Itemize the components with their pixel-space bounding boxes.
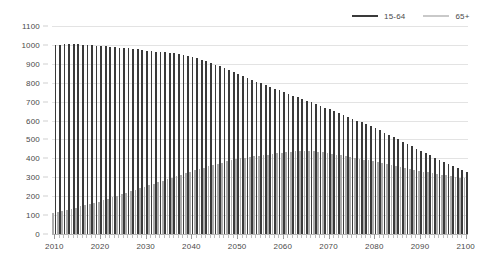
bar-group [107, 26, 111, 234]
bar-group [171, 26, 175, 234]
x-axis-tick-mark [146, 234, 147, 239]
bar-group [418, 26, 422, 234]
x-axis-tick-mark [297, 234, 298, 238]
x-axis-tick-mark [260, 234, 261, 238]
x-axis-tick-mark [219, 234, 220, 238]
x-axis-tick-mark [251, 234, 252, 238]
bar-group [413, 26, 417, 234]
bar-group [139, 26, 143, 234]
bar-group [432, 26, 436, 234]
bar-group [267, 26, 271, 234]
y-axis-tick-mark [43, 44, 48, 45]
y-axis-tick-label: 700 [26, 97, 40, 106]
x-axis-tick-mark [379, 234, 380, 238]
x-axis-tick-mark [155, 234, 156, 238]
bar-group [116, 26, 120, 234]
x-axis-tick-mark [342, 234, 343, 238]
x-axis-tick-mark [132, 234, 133, 238]
bar-group [253, 26, 257, 234]
bar-group [57, 26, 61, 234]
bar-group [290, 26, 294, 234]
y-axis: 010020030040050060070080090010001100 [0, 26, 48, 234]
bar-group [144, 26, 148, 234]
x-axis-tick-label: 2080 [365, 242, 384, 251]
x-axis-tick-mark [429, 234, 430, 238]
bar-group [345, 26, 349, 234]
bar-group [258, 26, 262, 234]
bar-group [130, 26, 134, 234]
bar-group [295, 26, 299, 234]
bar-group [235, 26, 239, 234]
bar-group [194, 26, 198, 234]
y-axis-tick-label: 800 [26, 78, 40, 87]
bar-group [208, 26, 212, 234]
bar-group [313, 26, 317, 234]
x-axis-tick-mark [361, 234, 362, 238]
x-axis-tick-mark [388, 234, 389, 238]
plot-area [52, 26, 468, 234]
bar-group [299, 26, 303, 234]
x-axis-tick-mark [347, 234, 348, 238]
x-axis-tick-mark [150, 234, 151, 238]
bar-group [372, 26, 376, 234]
bar-group [377, 26, 381, 234]
x-axis-tick-label: 2030 [136, 242, 155, 251]
x-axis-tick-label: 2070 [319, 242, 338, 251]
legend-line-icon-15-64 [352, 15, 378, 17]
bar-group [231, 26, 235, 234]
bar-group [340, 26, 344, 234]
x-axis-tick-mark [82, 234, 83, 238]
x-axis-tick-mark [73, 234, 74, 238]
bar-group [391, 26, 395, 234]
x-axis-tick-mark [370, 234, 371, 238]
bar-group [240, 26, 244, 234]
bar-group [93, 26, 97, 234]
bar-group [436, 26, 440, 234]
bar-group [153, 26, 157, 234]
x-axis-tick-mark [242, 234, 243, 238]
x-axis-tick-mark [447, 234, 448, 238]
bar-group [395, 26, 399, 234]
x-axis-tick-mark [63, 234, 64, 238]
y-axis-tick-mark [43, 234, 48, 235]
x-axis-tick-mark [169, 234, 170, 238]
bar-group [121, 26, 125, 234]
x-axis-tick-mark [457, 234, 458, 238]
x-axis-tick-mark [114, 234, 115, 238]
bar-group [354, 26, 358, 234]
x-axis-tick-mark [68, 234, 69, 238]
y-axis-tick-label: 0 [35, 230, 40, 239]
x-axis-tick-mark [329, 234, 330, 239]
bar-group [148, 26, 152, 234]
bar-group [249, 26, 253, 234]
bar-group [349, 26, 353, 234]
x-axis-tick-mark [310, 234, 311, 238]
x-axis-tick-mark [196, 234, 197, 238]
x-axis-tick-label: 2090 [411, 242, 430, 251]
x-axis-tick-label: 2100 [456, 242, 475, 251]
bar-group [221, 26, 225, 234]
x-axis-tick-mark [466, 234, 467, 239]
x-axis-tick-mark [434, 234, 435, 238]
x-axis-tick-mark [443, 234, 444, 238]
x-axis-tick-mark [278, 234, 279, 238]
bar-group [400, 26, 404, 234]
x-axis-tick-mark [374, 234, 375, 239]
legend-line-icon-65-plus [423, 15, 449, 17]
bar-group [455, 26, 459, 234]
x-axis-tick-mark [164, 234, 165, 238]
y-axis-tick-mark [43, 158, 48, 159]
x-axis-tick-mark [397, 234, 398, 238]
bar-group [423, 26, 427, 234]
x-axis-tick-mark [95, 234, 96, 238]
bar-series-container [52, 26, 468, 234]
x-axis-tick-mark [274, 234, 275, 238]
bar-group [189, 26, 193, 234]
y-axis-tick-label: 400 [26, 154, 40, 163]
bar-group [459, 26, 463, 234]
bar-15-64 [466, 172, 468, 234]
x-axis-tick-label: 2020 [91, 242, 110, 251]
y-axis-tick-mark [43, 101, 48, 102]
bar-group [331, 26, 335, 234]
x-axis-tick-mark [315, 234, 316, 238]
